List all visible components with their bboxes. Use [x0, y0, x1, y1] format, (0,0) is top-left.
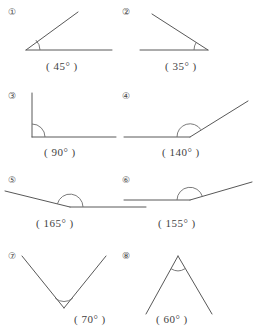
- ray-left-8: [146, 256, 178, 314]
- angle-arc-8: [171, 269, 185, 271]
- angle-figure-8: [0, 0, 256, 332]
- angle-label-8: ( 60° ): [156, 314, 188, 325]
- angle-worksheet: ① ( 45° ) ② ( 35° ) ③ ( 90° ) ④: [0, 0, 256, 332]
- ray-right-8: [178, 256, 212, 314]
